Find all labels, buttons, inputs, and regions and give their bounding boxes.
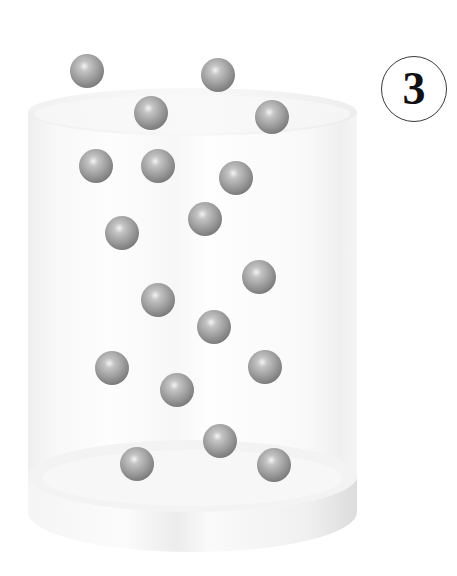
particle-sphere [188,202,222,236]
container [28,88,357,552]
particle-sphere [70,54,104,88]
particle-sphere [120,447,154,481]
particle-sphere [242,260,276,294]
particle-sphere [257,448,291,482]
particle-sphere [203,424,237,458]
particle-sphere [141,283,175,317]
particle-sphere [160,373,194,407]
particle-sphere [79,149,113,183]
particle-sphere [134,96,168,130]
particle-sphere [95,351,129,385]
particle-sphere [141,149,175,183]
particle-sphere [197,310,231,344]
figure-number-badge: 3 [381,56,447,122]
particle-sphere [201,58,235,92]
figure-number: 3 [403,66,426,112]
particle-sphere [105,216,139,250]
particle-sphere [255,100,289,134]
particle-sphere [219,161,253,195]
particle-sphere [248,350,282,384]
